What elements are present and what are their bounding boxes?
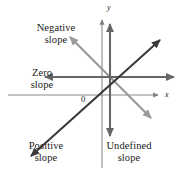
label-undefined-slope-line1: Undefined	[92, 140, 166, 152]
label-positive-slope-line1: Positive	[14, 140, 78, 152]
y-axis-label: y	[107, 3, 111, 12]
slope-diagram-figure: Negative slope Zero slope Positive slope…	[0, 0, 177, 179]
x-axis-label: x	[165, 90, 169, 99]
positive-slope-line	[31, 40, 160, 156]
label-negative-slope: Negative slope	[23, 22, 89, 45]
label-positive-slope: Positive slope	[14, 140, 78, 163]
label-undefined-slope: Undefined slope	[92, 140, 166, 163]
label-positive-slope-line2: slope	[14, 152, 78, 164]
label-zero-slope-line2: slope	[11, 79, 73, 91]
label-undefined-slope-line2: slope	[92, 152, 166, 164]
label-zero-slope-line1: Zero	[11, 67, 73, 79]
label-negative-slope-line1: Negative	[23, 22, 89, 34]
origin-label: 0	[81, 94, 85, 104]
label-negative-slope-line2: slope	[23, 34, 89, 46]
label-zero-slope: Zero slope	[11, 67, 73, 90]
